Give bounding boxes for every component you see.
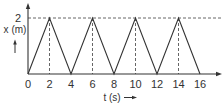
x-axis-arrow-icon — [216, 72, 222, 76]
series-line — [28, 18, 200, 74]
x-tick-label: 14 — [172, 78, 184, 90]
x-tick-label: 12 — [151, 78, 163, 90]
y-axis-arrow-icon — [26, 3, 30, 9]
x-tick-label: 16 — [194, 78, 206, 90]
dashed-guides — [28, 18, 223, 74]
x-tick-labels: 0246810121416 — [25, 78, 206, 90]
x-tick-label: 10 — [129, 78, 141, 90]
y-axis-label: x (m) — [4, 24, 27, 35]
x-tick-label: 4 — [68, 78, 74, 90]
x-tick-label: 8 — [111, 78, 117, 90]
x-tick-label: 0 — [25, 78, 31, 90]
y-direction-arrow-icon — [13, 40, 17, 54]
x-axis-label: t (s) — [103, 92, 120, 103]
displacement-time-chart: 0246810121416 2 x (m) t (s) — [0, 0, 223, 108]
axes — [26, 3, 222, 76]
y-tick-label: 2 — [15, 12, 21, 24]
x-tick-label: 2 — [46, 78, 52, 90]
x-direction-arrow-icon — [124, 96, 137, 100]
x-tick-label: 6 — [89, 78, 95, 90]
